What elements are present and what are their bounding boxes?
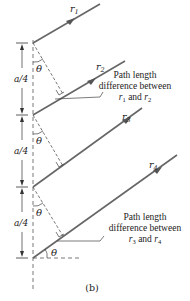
ray-r1: [33, 4, 100, 43]
spacing-label: a/4: [14, 146, 28, 156]
svg-text:Path length: Path length: [113, 70, 156, 80]
angle-arc: [33, 59, 43, 62]
ray-label-r4: r4: [149, 159, 158, 172]
spacing-label: a/4: [14, 74, 28, 84]
theta-label: θ: [36, 135, 42, 146]
angle-arc: [33, 131, 43, 134]
angle-arc: [45, 249, 47, 258]
theta-label: θ: [36, 207, 42, 218]
theta-label: θ: [51, 247, 57, 258]
spacing-label: a/4: [14, 218, 28, 228]
diffraction-diagram: θ θ θ θ a/4 a/4 a/4 r1 r2 r3 r4 Path len…: [0, 0, 190, 301]
angle-arc: [33, 203, 43, 206]
arrowhead-icon: [87, 78, 96, 85]
annotation-path-difference-r1-r2: Path length difference between r1 and r2: [99, 70, 172, 103]
svg-text:Path length: Path length: [123, 212, 166, 222]
arrowhead-icon: [66, 18, 75, 25]
svg-text:difference between: difference between: [99, 81, 172, 91]
ray-label-r1: r1: [70, 3, 79, 16]
figure-caption: (b): [85, 282, 99, 293]
svg-text:r3 and r4: r3 and r4: [129, 234, 162, 245]
svg-text:r1 and r2: r1 and r2: [119, 92, 151, 103]
right-angle-mark: [56, 90, 64, 95]
ray-label-r2: r2: [96, 61, 105, 74]
theta-label: θ: [36, 63, 42, 74]
annotation-path-difference-r3-r4: Path length difference between r3 and r4: [109, 212, 182, 245]
svg-text:difference between: difference between: [109, 223, 182, 233]
